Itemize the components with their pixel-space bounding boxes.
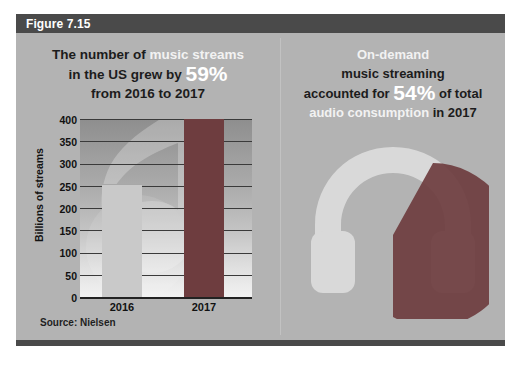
right-headline: On-demand music streaming accounted for … [287,45,499,122]
x-tick-label-2017: 2017 [174,301,234,313]
y-tick-label: 0 [37,293,77,303]
left-headline: The number of music streams in the US gr… [22,45,274,103]
y-tick-label: 50 [37,271,77,281]
left-headline-line3: from 2016 to 2017 [91,86,205,101]
x-axis-line [80,297,252,299]
right-panel: On-demand music streaming accounted for … [281,33,505,340]
bar-2017 [184,119,224,297]
y-tick-label: 250 [37,182,77,192]
figure-container: Figure 7.15 The number of music streams … [16,14,505,346]
bar-chart: Billions of streams 400 350 300 250 200 … [20,115,276,315]
gridline [80,141,252,142]
y-tick-label: 350 [37,137,77,147]
left-headline-line2-part1: in the US grew by [68,67,185,82]
pie-share-wedge [393,163,489,319]
figure-bottom-rule [16,340,505,346]
y-tick-label: 300 [37,159,77,169]
left-headline-line1-part1: The number of [52,47,150,62]
left-panel: The number of music streams in the US gr… [16,33,280,340]
figure-label: Figure 7.15 [26,17,90,31]
right-headline-line3-part1: accounted for [304,86,394,101]
right-headline-line2: music streaming [341,66,444,81]
x-tick-label-2016: 2016 [92,301,152,313]
right-headline-line3-part2: of total [435,86,482,101]
y-tick-label: 200 [37,204,77,214]
gridline [80,119,252,120]
right-headline-stat: 54% [393,81,435,104]
headphones-graphic [297,139,489,319]
left-headline-line1-highlight: music streams [149,47,244,62]
right-headline-line4-highlight: audio consumption [309,105,429,120]
right-headline-line4-part2: in 2017 [429,105,477,120]
y-tick-label: 400 [37,115,77,125]
left-headline-stat: 59% [186,62,228,85]
y-tick-label: 150 [37,226,77,236]
source-note: Source: Nielsen [40,317,116,328]
figure-header-bar: Figure 7.15 [16,14,505,33]
gridline [80,164,252,165]
y-tick-label: 100 [37,248,77,258]
right-headline-line1: On-demand [357,47,429,62]
plot-area [80,119,252,297]
bar-2016 [102,184,142,297]
